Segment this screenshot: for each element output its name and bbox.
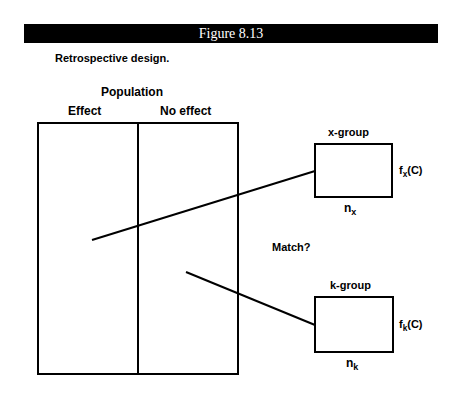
x-group-box	[315, 144, 392, 197]
k-group-box	[315, 297, 393, 352]
k-group-f-label: fk(C)	[399, 318, 423, 333]
x-group-n-label: nx	[344, 201, 356, 217]
population-title: Population	[101, 85, 163, 99]
effect-to-x-group-line	[92, 171, 315, 240]
k-group-n-label: nk	[346, 356, 358, 372]
x-group-label: x-group	[328, 126, 369, 138]
population-col-effect: Effect	[68, 104, 101, 118]
match-label: Match?	[272, 241, 311, 253]
x-group-f-label: fx(C)	[399, 164, 423, 179]
k-group-label: k-group	[330, 279, 371, 291]
population-col-no-effect: No effect	[160, 104, 211, 118]
no-effect-to-k-group-line	[186, 272, 315, 325]
diagram-canvas	[0, 0, 456, 402]
